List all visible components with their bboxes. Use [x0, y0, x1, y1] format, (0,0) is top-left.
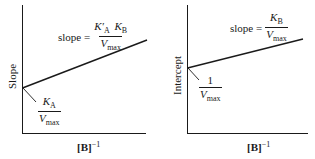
left-slope-denominator: Vmax [99, 36, 122, 52]
right-intercept-leader [188, 68, 199, 80]
right-intercept-denominator: Vmax [199, 87, 222, 103]
left-y-axis-label-text: Slope [6, 64, 18, 89]
left-x-axis-label: [B]−1 [77, 141, 100, 153]
right-intercept-numerator: 1 [207, 75, 215, 87]
left-x-axis-label-exp: −1 [92, 140, 101, 149]
right-x-axis-label: [B]−1 [247, 141, 270, 153]
right-slope-num-sub: B [277, 17, 282, 26]
right-slope-numerator: KB [269, 12, 284, 27]
right-slope-den-v: V [266, 28, 273, 40]
left-slope-fraction: K′A KB Vmax [93, 21, 128, 52]
right-x-axis-label-base: [B] [247, 141, 262, 153]
left-y-axis-label: Slope [6, 64, 18, 89]
left-intercept-fraction: KA Vmax [38, 96, 61, 127]
left-intercept-den-sub: max [46, 118, 60, 127]
right-y-axis-label: Intercept [171, 56, 183, 95]
left-intercept-den-v: V [39, 112, 46, 124]
left-x-axis-label-base: [B] [77, 141, 92, 153]
right-slope-prefix: slope = [230, 22, 262, 34]
right-slope-den-sub: max [273, 34, 287, 43]
left-intercept-num-sub: A [50, 101, 56, 110]
right-slope-equation: slope = KB Vmax [230, 12, 288, 43]
left-slope-num-k1: K′ [94, 20, 104, 32]
right-plot-line [188, 39, 304, 68]
left-slope-den-sub: max [107, 43, 121, 52]
left-slope-num-k2-sub: B [122, 26, 127, 35]
right-slope-fraction: KB Vmax [265, 12, 288, 43]
right-y-axis-label-text: Intercept [171, 56, 183, 95]
left-intercept-numerator: KA [42, 96, 57, 111]
left-slope-equation: slope = K′A KB Vmax [58, 21, 128, 52]
left-slope-numerator: K′A KB [93, 21, 128, 36]
right-intercept-num-one: 1 [208, 74, 214, 86]
right-x-axis-label-exp: −1 [262, 140, 271, 149]
left-slope-num-k1-sub: A [104, 26, 110, 35]
left-slope-prefix: slope = [58, 31, 90, 43]
right-intercept-fraction: 1 Vmax [199, 75, 222, 103]
right-intercept-den-sub: max [207, 94, 221, 103]
left-intercept-denominator: Vmax [38, 111, 61, 127]
right-slope-denominator: Vmax [265, 27, 288, 43]
right-intercept-den-v: V [200, 88, 207, 100]
left-intercept-num-k: K [43, 95, 50, 107]
left-intercept-leader [23, 88, 36, 102]
left-slope-num-k2: K [114, 20, 121, 32]
